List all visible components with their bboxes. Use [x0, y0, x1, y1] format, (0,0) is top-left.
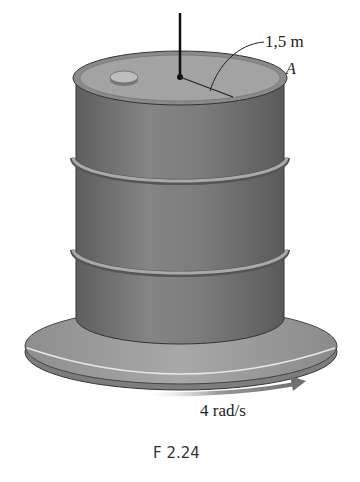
radius-label: 1,5 m — [265, 32, 304, 51]
bung-cap — [110, 71, 138, 86]
point-a-label: A — [285, 60, 296, 77]
figure-caption: F 2.24 — [153, 444, 200, 462]
angular-velocity-label: 4 rad/s — [200, 401, 246, 420]
drum-on-turntable-diagram: 1,5 m A 4 rad/s F 2.24 — [0, 0, 360, 482]
drum-body — [73, 78, 287, 344]
